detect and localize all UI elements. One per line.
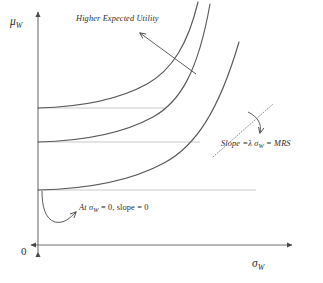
indifference-curve-figure: μW σW 0 Higher Expected Utility Slope =λ… <box>0 0 323 283</box>
slope-label-lambda: λ <box>248 139 252 148</box>
indifference-curve-mid <box>38 4 210 142</box>
zero-slope-label: At σW = 0, slope = 0 <box>79 204 149 212</box>
higher-utility-label: Higher Expected Utility <box>76 15 159 23</box>
x-axis-subscript: W <box>258 263 265 272</box>
slope-label-prefix: Slope = <box>221 139 248 148</box>
indifference-curve-low <box>38 42 239 190</box>
x-axis-label: σW <box>252 258 265 270</box>
origin-label: 0 <box>21 246 27 257</box>
indifference-curves <box>38 2 239 190</box>
zero-slope-subscript: W <box>93 206 98 213</box>
slope-mrs-label: Slope =λ σW = MRS <box>221 140 291 148</box>
y-axis-symbol: μ <box>10 15 16 27</box>
slope-label-suffix: = MRS <box>266 139 291 148</box>
slope-callout-arrow <box>248 112 261 133</box>
slope-label-subscript: W <box>258 142 263 149</box>
y-axis-label: μW <box>10 16 23 28</box>
y-axis-subscript: W <box>16 21 23 30</box>
zero-slope-prefix: At <box>79 203 87 212</box>
axes <box>31 12 292 252</box>
x-axis-symbol: σ <box>252 257 258 269</box>
zero-slope-callout-arrow <box>42 191 76 222</box>
tangent-line-dotted <box>213 104 273 157</box>
zero-slope-suffix: = 0, slope = 0 <box>101 203 149 212</box>
